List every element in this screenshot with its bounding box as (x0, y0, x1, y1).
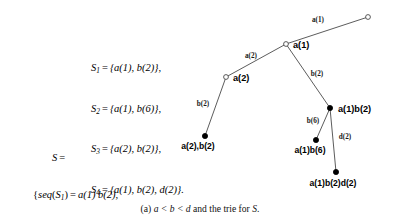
trie-diagram: a(1)a(2)b(2)b(2)b(6)d(2) a(1)a(2)a(2),b(… (0, 0, 400, 200)
caption-middle: and the trie for (193, 203, 250, 214)
trie-edge-label: b(2) (311, 70, 324, 78)
trie-edge-label: d(2) (339, 133, 352, 141)
trie-edge (330, 108, 336, 172)
trie-edge-group (205, 17, 368, 172)
trie-edge-label: b(2) (197, 100, 210, 108)
caption-prefix: (a) (141, 203, 152, 214)
trie-terminal-node (333, 169, 338, 174)
trie-terminal-node (202, 133, 207, 138)
trie-terminal-node (327, 105, 332, 110)
trie-node-label: a(1)b(6) (294, 145, 325, 155)
trie-node-group (202, 15, 370, 175)
trie-internal-node (366, 15, 371, 20)
trie-terminal-node (313, 137, 318, 142)
trie-internal-node (284, 42, 289, 47)
trie-edge (286, 44, 330, 108)
trie-node-label: a(1) (293, 40, 309, 50)
trie-edge-label: b(6) (307, 117, 320, 125)
trie-internal-node (224, 75, 229, 80)
caption-end: . (257, 203, 259, 214)
trie-edge-label: a(1) (312, 16, 325, 24)
figure-container: S1={a(1), b(2)}, S2={a(1), b(6)}, S3={a(… (0, 0, 400, 223)
trie-node-label: a(1)b(2)d(2) (310, 178, 357, 188)
trie-node-label-group: a(1)a(2)a(2),b(2)a(1)b(2)a(1)b(6)a(1)b(2… (181, 40, 371, 188)
figure-caption: (a) a < b < d and the trie for S. (0, 203, 400, 214)
trie-node-label: a(1)b(2) (338, 104, 371, 114)
trie-edge-label: a(2) (245, 52, 258, 60)
trie-node-label: a(2),b(2) (181, 141, 215, 151)
trie-edge-label-group: a(1)a(2)b(2)b(2)b(6)d(2) (197, 16, 352, 141)
caption-order: a < b < d (154, 203, 191, 214)
trie-node-label: a(2) (233, 73, 249, 83)
